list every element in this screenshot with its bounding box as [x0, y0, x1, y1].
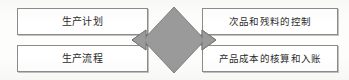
node-production-plan-label: 生产计划	[62, 17, 103, 27]
node-defect-control[interactable]: 次品和残料的控制	[202, 8, 338, 35]
diamond-shape	[143, 7, 205, 73]
diamond-body-overlay	[145, 9, 204, 72]
node-cost-accounting-label: 产品成本的核算和入账	[219, 54, 322, 64]
node-production-process-label: 生产流程	[62, 54, 103, 64]
node-defect-control-label: 次品和残料的控制	[229, 17, 311, 27]
node-cost-accounting[interactable]: 产品成本的核算和入账	[202, 45, 338, 72]
node-production-process[interactable]: 生产流程	[17, 45, 148, 72]
node-production-plan[interactable]: 生产计划	[17, 8, 148, 35]
process-diagram: 生产计划 生产流程 次品和残料的控制 产品成本的核算和入账	[0, 0, 349, 80]
